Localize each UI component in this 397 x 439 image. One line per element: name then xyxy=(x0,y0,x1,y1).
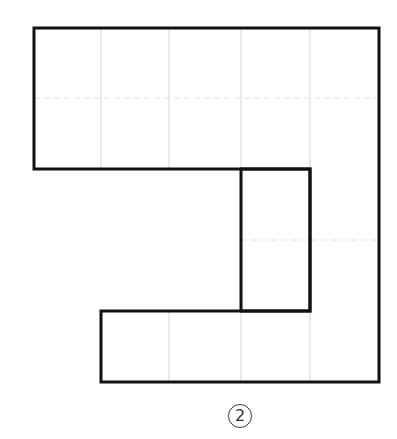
net-diagram xyxy=(0,0,397,439)
shape-outline xyxy=(34,28,379,382)
grid-lines xyxy=(34,28,379,382)
figure-number-label: 2 xyxy=(228,404,252,428)
